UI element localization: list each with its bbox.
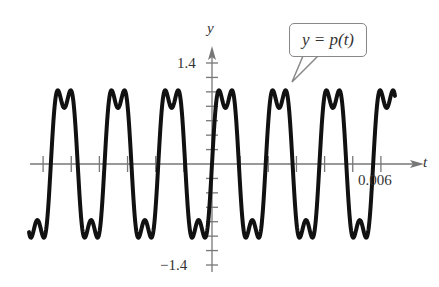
callout-label: y = p(t) xyxy=(302,30,354,50)
y-tick-label-top: 1.4 xyxy=(177,55,196,72)
y-axis-label: y xyxy=(207,20,214,37)
function-callout: y = p(t) xyxy=(289,23,367,57)
t-axis-label: t xyxy=(423,154,427,171)
y-tick-label-bottom: −1.4 xyxy=(160,257,187,274)
x-tick-label-right: 0.006 xyxy=(358,172,392,189)
plot-area xyxy=(0,0,439,287)
callout-pointer xyxy=(292,56,318,82)
